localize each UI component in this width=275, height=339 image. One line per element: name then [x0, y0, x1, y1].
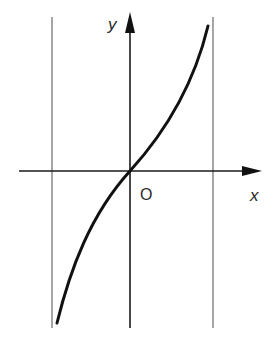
- x-axis-arrow-icon: [242, 166, 262, 176]
- x-axis-label: x: [249, 186, 259, 205]
- origin-label: O: [140, 186, 152, 203]
- function-curve: [57, 26, 208, 323]
- y-axis-label: y: [107, 15, 118, 34]
- y-axis-arrow-icon: [125, 12, 135, 33]
- function-graph: y O x: [0, 0, 275, 339]
